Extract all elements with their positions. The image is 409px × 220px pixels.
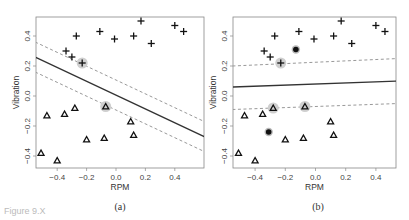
decision-boundary: [232, 81, 398, 87]
y-axis-label: Vibration: [11, 76, 21, 110]
y-tick-label: 0.2: [23, 60, 32, 72]
triangle-marker: [131, 132, 137, 137]
plus-marker: [295, 28, 302, 35]
plus-marker: [330, 33, 337, 40]
x-tick-label: 0.4: [370, 173, 382, 182]
plus-marker: [372, 22, 379, 29]
margin-line: [232, 104, 398, 110]
filled-circle-marker: [266, 129, 272, 135]
triangle-marker: [282, 137, 288, 142]
x-axis-label: RPM: [111, 182, 130, 192]
x-tick-label: 0.2: [140, 173, 152, 182]
x-tick-label: −0.4: [49, 173, 65, 182]
y-tick-label: 0.0: [220, 90, 229, 102]
chart-panel-b: −0.4−0.20.00.20.4−0.4−0.20.00.20.4RPMVib…: [208, 17, 399, 213]
triangle-marker: [300, 135, 306, 140]
svm-figure: −0.4−0.20.00.20.4−0.4−0.20.00.20.4RPMVib…: [0, 0, 409, 220]
triangle-marker: [252, 158, 258, 163]
plus-marker: [111, 36, 118, 43]
plus-marker: [96, 28, 103, 35]
y-tick-label: 0.2: [220, 60, 229, 72]
triangle-marker: [242, 113, 248, 118]
plus-marker: [137, 18, 144, 25]
plot-frame: [36, 17, 204, 168]
panel-caption: (b): [312, 201, 324, 213]
plus-marker: [73, 33, 80, 40]
y-tick-label: 0.0: [23, 90, 32, 102]
triangle-marker: [44, 113, 50, 118]
plus-marker: [267, 54, 274, 61]
x-tick-label: −0.2: [79, 173, 95, 182]
plus-marker: [68, 54, 75, 61]
y-tick-label: −0.4: [220, 148, 229, 164]
triangle-marker: [62, 111, 68, 116]
triangle-marker: [101, 135, 107, 140]
triangle-marker: [84, 137, 90, 142]
plus-marker: [271, 33, 278, 40]
plus-marker: [338, 18, 345, 25]
filled-circle-marker: [293, 47, 299, 53]
plus-marker: [63, 48, 70, 55]
x-tick-label: 0.0: [310, 173, 322, 182]
x-tick-label: −0.2: [277, 173, 293, 182]
decision-boundary: [35, 57, 204, 137]
margin-line: [35, 72, 204, 152]
x-tick-label: 0.2: [340, 173, 352, 182]
y-tick-label: −0.4: [23, 148, 32, 164]
triangle-marker: [260, 111, 266, 116]
triangle-marker: [38, 150, 44, 155]
chart-panel-a: −0.4−0.20.00.20.4−0.4−0.20.00.20.4RPMVib…: [11, 17, 204, 213]
triangle-marker: [328, 119, 334, 124]
triangle-marker: [54, 158, 60, 163]
margin-line: [232, 59, 398, 67]
triangle-marker: [235, 150, 241, 155]
x-tick-label: 0.0: [110, 173, 122, 182]
y-tick-label: −0.2: [23, 118, 32, 134]
plus-marker: [348, 40, 355, 47]
y-tick-label: 0.4: [23, 30, 32, 42]
plus-marker: [261, 48, 268, 55]
margin-line: [35, 42, 204, 122]
y-tick-label: −0.2: [220, 118, 229, 134]
x-tick-label: 0.4: [169, 173, 181, 182]
figure-label: Figure 9.X: [4, 206, 46, 216]
y-tick-label: 0.4: [220, 30, 229, 42]
panel-caption: (a): [114, 201, 125, 213]
plus-marker: [171, 22, 178, 29]
plus-marker: [310, 36, 317, 43]
x-axis-label: RPM: [305, 182, 324, 192]
triangle-marker: [331, 132, 337, 137]
triangle-marker: [72, 105, 78, 110]
triangle-marker: [128, 119, 134, 124]
plus-marker: [148, 40, 155, 47]
plus-marker: [180, 28, 187, 35]
plus-marker: [130, 33, 137, 40]
y-axis-label: Vibration: [208, 76, 218, 110]
x-tick-label: −0.4: [247, 173, 263, 182]
plus-marker: [381, 28, 388, 35]
